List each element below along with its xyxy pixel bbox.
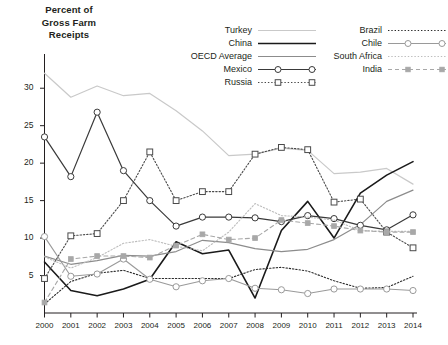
marker-point bbox=[305, 290, 311, 296]
series-turkey bbox=[45, 73, 414, 184]
legend-item-russia[interactable]: Russia bbox=[178, 76, 318, 89]
marker-point bbox=[147, 149, 153, 155]
marker-point bbox=[121, 254, 126, 259]
marker-point bbox=[147, 276, 153, 282]
marker-point bbox=[411, 230, 416, 235]
legend-label: Chile bbox=[318, 37, 386, 50]
marker-point bbox=[147, 198, 153, 204]
series-line-4 bbox=[45, 147, 414, 278]
legend-item-oecd-average[interactable]: OECD Average bbox=[178, 50, 318, 63]
marker-point bbox=[121, 198, 127, 204]
legend-column-right: BrazilChileSouth AfricaIndia bbox=[318, 24, 448, 76]
marker-point bbox=[278, 287, 284, 293]
marker-point bbox=[41, 134, 47, 140]
marker-point bbox=[278, 145, 284, 151]
legend-swatch-oecd-average bbox=[256, 50, 318, 63]
legend-label: South Africa bbox=[318, 50, 386, 63]
marker-point bbox=[147, 255, 152, 260]
legend-item-china[interactable]: China bbox=[178, 37, 318, 50]
series-line-3 bbox=[45, 112, 414, 230]
series-line-6 bbox=[45, 237, 414, 294]
legend-item-south-africa[interactable]: South Africa bbox=[318, 50, 448, 63]
marker-point bbox=[410, 245, 416, 251]
legend-item-brazil[interactable]: Brazil bbox=[318, 24, 448, 37]
y-tick-label-10: 10 bbox=[12, 232, 34, 242]
marker-point bbox=[331, 199, 337, 205]
legend-item-mexico[interactable]: Mexico bbox=[178, 63, 318, 76]
marker-point bbox=[41, 233, 47, 239]
series-group bbox=[41, 73, 416, 305]
marker-point bbox=[358, 228, 363, 233]
marker-point bbox=[173, 284, 179, 290]
marker-point bbox=[305, 212, 311, 218]
x-tick-label-2014: 2014 bbox=[398, 321, 428, 330]
legend-swatch-chile bbox=[386, 37, 448, 50]
legend-marker bbox=[405, 41, 411, 47]
marker-point bbox=[384, 286, 390, 292]
marker-point bbox=[252, 285, 258, 291]
y-tick-label-15: 15 bbox=[12, 195, 34, 205]
legend-swatch-russia bbox=[256, 76, 318, 89]
marker-point bbox=[384, 230, 389, 235]
marker-point bbox=[68, 174, 74, 180]
series-line-0 bbox=[45, 73, 414, 184]
series-mexico bbox=[41, 109, 416, 233]
marker-point bbox=[173, 198, 179, 204]
legend-label: Turkey bbox=[178, 24, 256, 37]
legend-label: India bbox=[318, 63, 386, 76]
legend-swatch-south-africa bbox=[386, 50, 448, 63]
y-tick-label-20: 20 bbox=[12, 157, 34, 167]
marker-point bbox=[226, 275, 232, 281]
marker-point bbox=[253, 236, 258, 241]
marker-point bbox=[94, 231, 100, 237]
marker-point bbox=[305, 147, 311, 153]
legend-item-india[interactable]: India bbox=[318, 63, 448, 76]
marker-point bbox=[332, 224, 337, 229]
marker-point bbox=[120, 168, 126, 174]
legend-swatch-brazil bbox=[386, 24, 448, 37]
marker-point bbox=[68, 273, 74, 279]
marker-point bbox=[226, 237, 231, 242]
marker-point bbox=[42, 276, 48, 282]
legend-label: OECD Average bbox=[178, 50, 256, 63]
marker-point bbox=[331, 215, 337, 221]
y-tick-label-5: 5 bbox=[12, 270, 34, 280]
marker-point bbox=[68, 233, 74, 239]
marker-point bbox=[410, 287, 416, 293]
legend-item-chile[interactable]: Chile bbox=[318, 37, 448, 50]
legend-item-turkey[interactable]: Turkey bbox=[178, 24, 318, 37]
marker-point bbox=[331, 286, 337, 292]
legend-label: Russia bbox=[178, 76, 256, 89]
legend-swatch-india bbox=[386, 63, 448, 76]
marker-point bbox=[199, 214, 205, 220]
legend-label: Brazil bbox=[318, 24, 386, 37]
marker-point bbox=[305, 221, 310, 226]
y-tick-label-25: 25 bbox=[12, 120, 34, 130]
marker-point bbox=[252, 151, 258, 157]
y-tick-label-30: 30 bbox=[12, 82, 34, 92]
legend-marker bbox=[406, 67, 410, 71]
marker-point bbox=[279, 218, 284, 223]
marker-point bbox=[410, 212, 416, 218]
legend-swatch-turkey bbox=[256, 24, 318, 37]
marker-point bbox=[68, 257, 73, 262]
marker-point bbox=[226, 189, 232, 195]
legend-swatch-china bbox=[256, 37, 318, 50]
marker-point bbox=[357, 196, 363, 202]
marker-point bbox=[94, 271, 100, 277]
marker-point bbox=[94, 109, 100, 115]
legend-marker bbox=[309, 80, 315, 86]
legend-label: China bbox=[178, 37, 256, 50]
marker-point bbox=[173, 223, 179, 229]
marker-point bbox=[357, 222, 363, 228]
marker-point bbox=[357, 286, 363, 292]
legend-marker bbox=[440, 67, 444, 71]
legend-marker bbox=[439, 41, 445, 47]
marker-point bbox=[42, 300, 47, 305]
legend-marker bbox=[309, 67, 315, 73]
marker-point bbox=[199, 278, 205, 284]
legend-column-left: TurkeyChinaOECD AverageMexicoRussia bbox=[178, 24, 318, 89]
marker-point bbox=[252, 215, 258, 221]
marker-point bbox=[95, 254, 100, 259]
